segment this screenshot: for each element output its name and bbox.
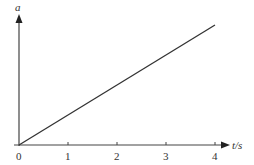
x-axis-arrow-icon: [221, 142, 230, 149]
x-tick-4: 4: [212, 150, 218, 162]
x-tick-0: 0: [16, 150, 22, 162]
y-axis-arrow-icon: [16, 14, 23, 23]
x-tick-1: 1: [65, 150, 71, 162]
x-tick-2: 2: [114, 150, 120, 162]
acceleration-time-chart: a t/s 0 1 2 3 4: [0, 0, 254, 165]
x-axis-label: t/s: [232, 139, 242, 151]
y-axis-label: a: [15, 1, 21, 13]
x-tick-3: 3: [163, 150, 169, 162]
data-line: [19, 25, 215, 145]
